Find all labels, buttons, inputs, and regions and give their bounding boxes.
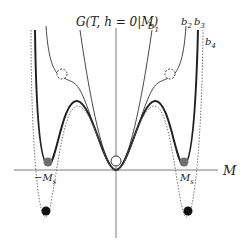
- curve-b4-label: b4: [205, 36, 216, 50]
- curve-b4: [31, 30, 203, 217]
- gray-left-marker: [44, 158, 53, 167]
- shoulder-right-dashed-marker: [165, 69, 175, 79]
- gray-right-marker: [180, 158, 189, 167]
- x-axis-label: M: [222, 163, 237, 178]
- shoulder-left-dashed-marker: [57, 69, 67, 79]
- curve-b3-label: b3: [194, 16, 205, 30]
- curve-b2-label: b2: [181, 16, 192, 30]
- black-right-marker: [184, 207, 193, 216]
- title-label: G(T, h = 0|M): [76, 15, 159, 29]
- pos-ms-label: Ms: [179, 172, 194, 186]
- origin-open-circle-marker: [111, 156, 121, 166]
- black-left-marker: [42, 207, 51, 216]
- free-energy-diagram: G(T, h = 0|M) b1 b2 b3 b4 M −Ms Ms: [0, 0, 243, 244]
